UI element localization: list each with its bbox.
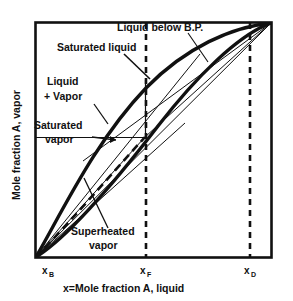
x-tick-xf-sub: F [147, 271, 152, 278]
x-tick-xb-base: x [42, 265, 48, 276]
vle-diagram-figure: Liquid below B.P. Saturated liquid Liqui… [0, 0, 293, 301]
x-axis-title: x=Mole fraction A, liquid [63, 282, 184, 294]
annotation-superheated-vapor-line1: Superheated [71, 225, 135, 237]
annotation-liquid-below-bp: Liquid below B.P. [117, 21, 203, 33]
annotation-saturated-vapor-line1: Saturated [34, 119, 82, 131]
annotation-liquid-plus-vapor-line2: + Vapor [44, 90, 82, 102]
x-tick-xb-sub: B [49, 271, 54, 278]
annotation-saturated-vapor-line2: vapor [45, 133, 74, 145]
y-axis-title: Mole fraction A, vapor [10, 90, 22, 200]
x-tick-xd-base: x [244, 265, 250, 276]
diagram-canvas: Liquid below B.P. Saturated liquid Liqui… [0, 0, 293, 301]
annotation-saturated-liquid: Saturated liquid [57, 41, 136, 53]
x-tick-xf-base: x [140, 265, 146, 276]
annotation-superheated-vapor-line2: vapor [89, 239, 118, 251]
x-tick-xd-sub: D [251, 271, 256, 278]
annotation-liquid-plus-vapor-line1: Liquid [47, 75, 79, 87]
